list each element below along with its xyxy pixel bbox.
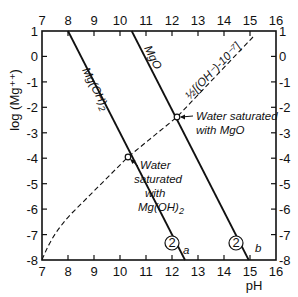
svg-text:13: 13	[191, 13, 205, 28]
svg-text:12: 12	[165, 264, 179, 279]
svg-text:11: 11	[139, 13, 153, 28]
svg-text:7: 7	[38, 13, 45, 28]
svg-text:-1: -1	[26, 75, 38, 90]
left-tick-labels: 1 0 -1 -2 -3 -4 -5 -6 -7 -8	[26, 24, 38, 268]
label-mgoh2: Mg(OH)2	[78, 65, 112, 113]
svg-text:-5: -5	[279, 177, 291, 192]
svg-text:10: 10	[113, 264, 127, 279]
svg-text:2: 2	[232, 235, 239, 250]
svg-text:9: 9	[90, 13, 97, 28]
annotation-mgoh2: Water saturated with Mg(OH)2	[134, 159, 185, 216]
svg-text:-3: -3	[279, 126, 291, 141]
intersection-mgo	[174, 114, 180, 120]
svg-text:-3: -3	[26, 126, 38, 141]
svg-text:8: 8	[64, 13, 71, 28]
svg-text:-6: -6	[26, 202, 38, 217]
svg-text:15: 15	[243, 13, 257, 28]
svg-text:-1: -1	[279, 75, 291, 90]
top-tick-labels: 7 8 9 10 11 12 13 14 15 16	[38, 13, 283, 28]
svg-text:-7: -7	[279, 228, 291, 243]
x-axis-label: pH	[246, 278, 263, 293]
intersection-mgoh2	[125, 154, 131, 160]
annotation-mgo: Water saturated with MgO	[196, 110, 281, 136]
arrowhead-mgo-icon	[180, 115, 185, 120]
svg-text:7: 7	[38, 264, 45, 279]
right-tick-labels: 1 0 -1 -2 -3 -4 -5 -6 -7 -8	[279, 24, 291, 268]
svg-text:11: 11	[139, 264, 153, 279]
svg-text:-4: -4	[279, 151, 291, 166]
y-axis-label: log (Mg⁺⁺)	[7, 69, 22, 131]
svg-text:-8: -8	[26, 253, 38, 268]
marker-b: 2	[229, 235, 243, 250]
svg-text:12: 12	[165, 13, 179, 28]
bottom-tick-labels: 7 8 9 10 11 12 13 14 15 16	[38, 264, 283, 279]
svg-text:-5: -5	[26, 177, 38, 192]
svg-text:15: 15	[243, 264, 257, 279]
svg-text:10: 10	[113, 13, 127, 28]
label-dashed: ½[(OH⁻)-10⁻⁷]	[183, 39, 244, 101]
svg-text:0: 0	[31, 49, 38, 64]
svg-text:9: 9	[90, 264, 97, 279]
svg-text:2: 2	[168, 235, 175, 250]
end-label-a: a	[183, 244, 189, 256]
svg-text:-6: -6	[279, 202, 291, 217]
svg-text:0: 0	[279, 49, 286, 64]
svg-text:-8: -8	[279, 253, 291, 268]
chart: 7 8 9 10 11 12 13 14 15 16 7 8 9 10 11 1…	[0, 0, 298, 297]
svg-text:14: 14	[217, 264, 231, 279]
line-oh-dashed	[42, 37, 253, 260]
svg-text:8: 8	[64, 264, 71, 279]
svg-text:1: 1	[31, 24, 38, 39]
svg-text:1: 1	[279, 24, 286, 39]
svg-text:-7: -7	[26, 228, 38, 243]
svg-text:-4: -4	[26, 151, 38, 166]
end-label-b: b	[255, 242, 262, 254]
marker-a: 2	[165, 235, 179, 250]
line-mgoh2	[68, 31, 185, 260]
svg-text:13: 13	[191, 264, 205, 279]
svg-text:-2: -2	[26, 100, 38, 115]
svg-text:14: 14	[217, 13, 231, 28]
line-mgo	[132, 31, 249, 260]
